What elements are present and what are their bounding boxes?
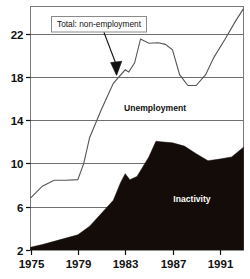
total-callout-label: Total: non-employment xyxy=(57,19,142,29)
x-tick-label-1991: 1991 xyxy=(208,258,234,270)
y-tick-label-2: 2 xyxy=(17,245,23,257)
y-tick-label-6: 6 xyxy=(17,202,23,214)
y-tick-label-10: 10 xyxy=(11,158,24,170)
y-tick-label-22: 22 xyxy=(11,29,24,41)
x-tick-label-1983: 1983 xyxy=(113,258,139,270)
y-tick-label-18: 18 xyxy=(11,72,24,84)
inactivity-label: Inactivity xyxy=(173,194,210,204)
chart-container: 2610141822 19751979198319871991 Total: n… xyxy=(0,0,250,279)
unemployment-label: Unemployment xyxy=(124,103,186,113)
x-tick-label-1975: 1975 xyxy=(19,258,45,270)
nonemployment-area-chart: 2610141822 19751979198319871991 Total: n… xyxy=(0,0,250,279)
y-tick-label-14: 14 xyxy=(11,115,24,127)
x-tick-label-1987: 1987 xyxy=(161,258,187,270)
x-tick-label-1979: 1979 xyxy=(66,258,92,270)
